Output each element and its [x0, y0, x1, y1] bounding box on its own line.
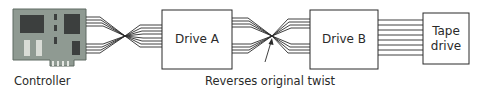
- tape-drive-box: Tape drive: [423, 13, 469, 64]
- straight-cable: [378, 20, 423, 55]
- cable-diagram: Drive A Drive B Tape drive Co: [0, 0, 484, 91]
- tape-drive-label-line1: Tape: [431, 24, 460, 38]
- annotation-arrow-icon: [265, 38, 274, 62]
- controller-label: Controller: [14, 74, 71, 88]
- drive-a-label: Drive A: [175, 32, 220, 46]
- drive-a-box: Drive A: [162, 10, 232, 69]
- drive-b-box: Drive B: [310, 10, 378, 69]
- twisted-cable-1: [86, 17, 162, 53]
- controller-board-icon: [13, 9, 86, 66]
- twisted-cable-2: [232, 18, 310, 53]
- twist-annotation-label: Reverses original twist: [205, 74, 336, 88]
- drive-b-label: Drive B: [322, 32, 366, 46]
- tape-drive-label-line2: drive: [431, 39, 461, 53]
